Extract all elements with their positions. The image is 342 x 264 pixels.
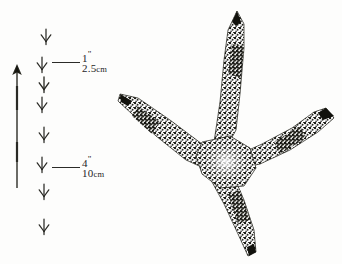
stride-direction-arrow bbox=[9, 64, 25, 188]
scale-value-metric-small: 2.5 bbox=[82, 62, 96, 74]
scale-value-metric-large: 10 bbox=[82, 167, 93, 179]
scale-unit-metric-large: cm bbox=[93, 169, 104, 179]
scale-label-metric-large: 10cm bbox=[82, 168, 104, 179]
front-toe-right bbox=[240, 108, 334, 168]
trail-track-5 bbox=[34, 126, 54, 144]
bird-footprint bbox=[104, 2, 342, 264]
metatarsal-pad bbox=[196, 136, 256, 188]
trail-track-column bbox=[28, 18, 62, 248]
trail-track-3 bbox=[34, 76, 54, 94]
trail-track-1 bbox=[36, 28, 56, 46]
scale-tick-small bbox=[52, 62, 80, 63]
front-toe-middle bbox=[214, 11, 244, 152]
scale-unit-imperial-small: " bbox=[88, 49, 92, 59]
scale-unit-imperial-large: " bbox=[88, 154, 92, 164]
trail-track-8 bbox=[34, 218, 54, 236]
trail-track-6 bbox=[32, 156, 52, 174]
trail-track-2 bbox=[32, 56, 52, 74]
scale-tick-large bbox=[52, 167, 80, 168]
bird-track-figure: 1" 2.5cm 4" 10cm bbox=[0, 0, 342, 264]
trail-track-4 bbox=[32, 96, 52, 114]
trail-track-7 bbox=[34, 183, 54, 201]
